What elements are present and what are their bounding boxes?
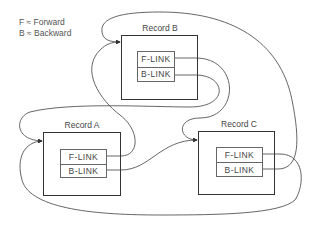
record-b-blink: B-LINK (138, 67, 174, 82)
record-a-title: Record A (60, 120, 104, 130)
record-c-title: Record C (217, 119, 261, 129)
record-b-links: F-LINK B-LINK (137, 51, 175, 82)
record-c-links: F-LINK B-LINK (216, 147, 263, 177)
legend-backward: B ≈ Backward (19, 28, 71, 39)
legend-forward: F ≈ Forward (19, 17, 71, 28)
record-b-title: Record B (138, 23, 182, 33)
record-a-blink: B-LINK (61, 164, 106, 178)
record-a-links: F-LINK B-LINK (60, 149, 107, 178)
record-a-flink: F-LINK (61, 150, 106, 164)
record-c-flink: F-LINK (217, 148, 262, 162)
record-c-blink: B-LINK (217, 162, 262, 176)
record-b-flink: F-LINK (138, 52, 174, 67)
legend: F ≈ Forward B ≈ Backward (19, 17, 71, 39)
